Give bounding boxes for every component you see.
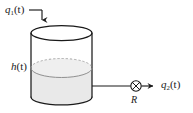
level-label: h(t)	[11, 61, 27, 72]
tank-top-rim	[31, 26, 92, 41]
outflow-label: q2(t)	[161, 79, 180, 92]
outflow-label-argument: (t)	[170, 78, 180, 90]
fluid-body	[31, 59, 92, 105]
inflow-label: q1(t)	[5, 4, 24, 17]
level-label-argument: (t)	[17, 60, 27, 72]
valve-symbol	[131, 81, 141, 91]
resistance-label: R	[131, 95, 137, 105]
figure-canvas	[0, 0, 193, 113]
inflow-label-argument: (t)	[14, 3, 24, 15]
tank-system-figure: q1(t) h(t) q2(t) R	[0, 0, 193, 113]
inlet-pipe	[29, 10, 42, 20]
